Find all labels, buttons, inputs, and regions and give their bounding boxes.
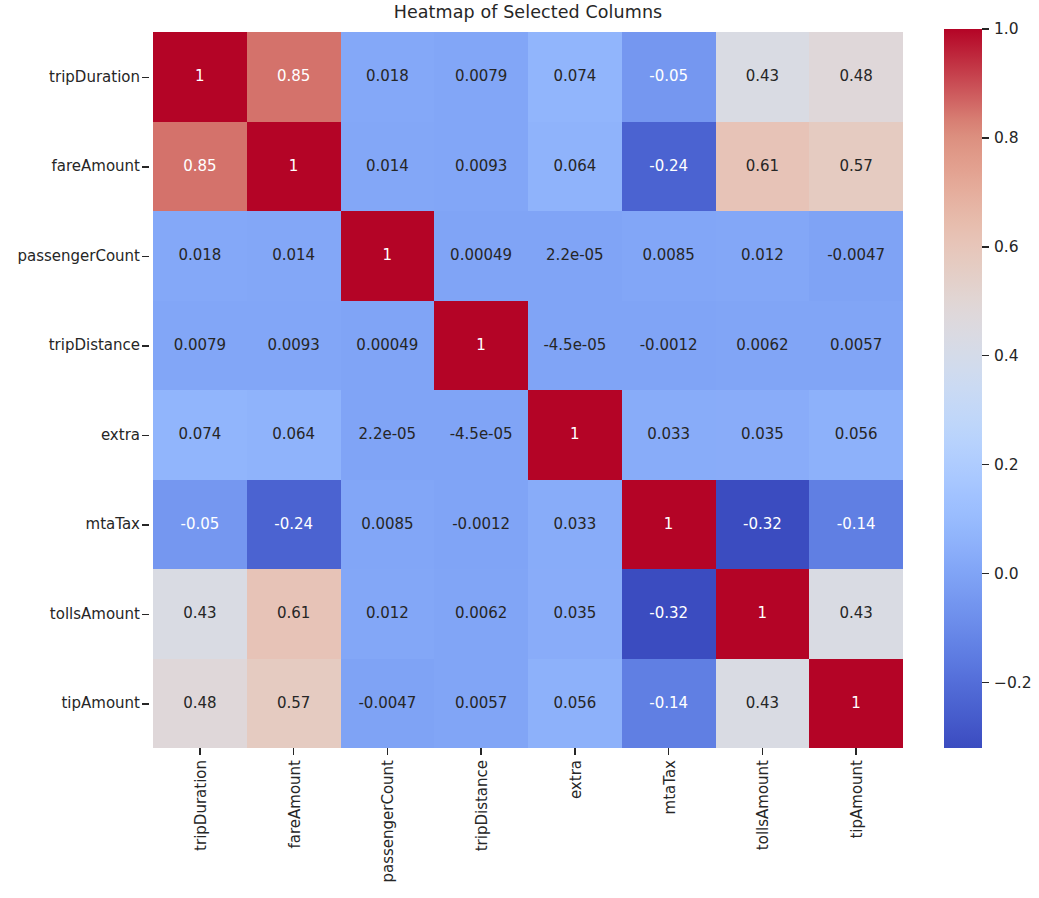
heatmap-cell-value: 0.43 bbox=[839, 606, 872, 621]
heatmap-cell: 0.43 bbox=[153, 569, 247, 659]
heatmap-cell-value: 0.0057 bbox=[830, 338, 883, 353]
heatmap-cell: 1 bbox=[809, 659, 903, 749]
x-tick-mark-icon bbox=[668, 748, 669, 755]
heatmap-cell: -0.0012 bbox=[622, 301, 716, 391]
x-axis-tick-labels: tripDurationfareAmountpassengerCounttrip… bbox=[153, 748, 903, 898]
heatmap-cell-value: 0.014 bbox=[366, 159, 409, 174]
heatmap-cell: -0.32 bbox=[622, 569, 716, 659]
heatmap-cell: 0.033 bbox=[528, 480, 622, 570]
heatmap-cell-value: 0.018 bbox=[366, 69, 409, 84]
x-tick-tripDuration: tripDuration bbox=[153, 748, 247, 898]
heatmap-cell: 0.0057 bbox=[809, 301, 903, 391]
heatmap-cell: -0.14 bbox=[809, 480, 903, 570]
heatmap-cell: 0.018 bbox=[341, 32, 435, 122]
heatmap-cell-value: 0.0085 bbox=[642, 248, 695, 263]
y-tick-mark-icon bbox=[142, 345, 149, 346]
heatmap-cell: 0.064 bbox=[528, 122, 622, 212]
heatmap-cell: 0.012 bbox=[341, 569, 435, 659]
heatmap-cell: 2.2e-05 bbox=[341, 390, 435, 480]
colorbar-tick-mark-icon bbox=[982, 573, 989, 574]
heatmap-cell-value: -0.24 bbox=[274, 517, 313, 532]
x-tick-extra: extra bbox=[528, 748, 622, 898]
heatmap-cell-value: 0.012 bbox=[741, 248, 784, 263]
x-tick-tripDistance: tripDistance bbox=[434, 748, 528, 898]
y-tick-mark-icon bbox=[142, 524, 149, 525]
heatmap-cell-value: -0.24 bbox=[649, 159, 688, 174]
heatmap-cell-value: 0.074 bbox=[178, 427, 221, 442]
y-tick-tripDistance: tripDistance bbox=[49, 301, 140, 391]
x-tick-tipAmount: tipAmount bbox=[809, 748, 903, 898]
heatmap-cell-value: 1 bbox=[570, 427, 580, 442]
heatmap-cell-value: -0.0047 bbox=[358, 696, 416, 711]
heatmap-cell: -0.32 bbox=[716, 480, 810, 570]
heatmap-cell: 0.056 bbox=[809, 390, 903, 480]
heatmap-cell: 1 bbox=[528, 390, 622, 480]
colorbar-tick-mark-icon bbox=[982, 464, 989, 465]
heatmap-cell: 0.0062 bbox=[434, 569, 528, 659]
heatmap-cell-value: 0.0093 bbox=[267, 338, 320, 353]
colorbar-tick-mark-icon bbox=[982, 246, 989, 247]
heatmap-cell: 0.43 bbox=[809, 569, 903, 659]
heatmap-cell-value: 2.2e-05 bbox=[546, 248, 604, 263]
heatmap-cell-value: 0.064 bbox=[553, 159, 596, 174]
heatmap-cell-value: 0.056 bbox=[835, 427, 878, 442]
heatmap-cell-value: -0.32 bbox=[649, 606, 688, 621]
heatmap-cell-value: 0.033 bbox=[647, 427, 690, 442]
heatmap-cell-value: -0.32 bbox=[743, 517, 782, 532]
heatmap-cell-value: 0.61 bbox=[277, 606, 310, 621]
heatmap-cell-value: 0.056 bbox=[553, 696, 596, 711]
heatmap-cell: -0.24 bbox=[247, 480, 341, 570]
y-tick-mark-icon bbox=[142, 614, 149, 615]
heatmap-cell: 0.61 bbox=[716, 122, 810, 212]
x-tick-label: tripDuration bbox=[192, 760, 210, 851]
heatmap-cell: -0.14 bbox=[622, 659, 716, 749]
heatmap-cell-value: 0.035 bbox=[553, 606, 596, 621]
heatmap-row: 0.0180.01410.000492.2e-050.00850.012-0.0… bbox=[153, 211, 903, 301]
heatmap-cell: 0.035 bbox=[528, 569, 622, 659]
heatmap-cell-value: -0.05 bbox=[649, 69, 688, 84]
heatmap-row: 0.00790.00930.000491-4.5e-05-0.00120.006… bbox=[153, 301, 903, 391]
heatmap-cell: 0.0079 bbox=[434, 32, 528, 122]
colorbar-tick-mark-icon bbox=[982, 682, 989, 683]
heatmap-cell-value: 1 bbox=[476, 338, 486, 353]
heatmap-cell-value: 0.00049 bbox=[356, 338, 418, 353]
colorbar-tick-label: −0.2 bbox=[994, 673, 1032, 691]
heatmap-cell: 1 bbox=[434, 301, 528, 391]
heatmap-cell-value: 0.018 bbox=[178, 248, 221, 263]
x-tick-label: mtaTax bbox=[661, 760, 679, 814]
heatmap-cell: 0.056 bbox=[528, 659, 622, 749]
heatmap-cell-value: 0.0079 bbox=[455, 69, 508, 84]
heatmap-cell-value: 0.57 bbox=[839, 159, 872, 174]
y-tick-label: tollsAmount bbox=[50, 605, 140, 623]
y-axis-tick-labels: tripDurationfareAmountpassengerCounttrip… bbox=[0, 32, 153, 748]
y-tick-tollsAmount: tollsAmount bbox=[50, 569, 140, 659]
colorbar-tick-mark-icon bbox=[982, 28, 989, 29]
y-tick-label: extra bbox=[101, 426, 140, 444]
heatmap-cell-value: 0.0079 bbox=[174, 338, 227, 353]
x-tick-label: tripDistance bbox=[473, 760, 491, 851]
y-tick-extra: extra bbox=[101, 390, 140, 480]
heatmap-row: -0.05-0.240.0085-0.00120.0331-0.32-0.14 bbox=[153, 480, 903, 570]
heatmap-cell-value: 0.064 bbox=[272, 427, 315, 442]
heatmap-cell: 0.00049 bbox=[434, 211, 528, 301]
x-tick-mark-icon bbox=[855, 748, 856, 755]
heatmap-cell: 0.014 bbox=[341, 122, 435, 212]
colorbar-tick-mark-icon bbox=[982, 355, 989, 356]
heatmap-cell: -0.0047 bbox=[809, 211, 903, 301]
heatmap-row: 0.480.57-0.00470.00570.056-0.140.431 bbox=[153, 659, 903, 749]
y-tick-tipAmount: tipAmount bbox=[61, 659, 140, 749]
colorbar-tick-label: 1.0 bbox=[994, 20, 1019, 38]
y-tick-tripDuration: tripDuration bbox=[49, 32, 140, 122]
x-tick-mark-icon bbox=[762, 748, 763, 755]
heatmap-grid: 10.850.0180.00790.074-0.050.430.480.8510… bbox=[153, 32, 903, 748]
heatmap-cell: 0.018 bbox=[153, 211, 247, 301]
heatmap-cell: 0.0062 bbox=[716, 301, 810, 391]
heatmap-cell-value: 1 bbox=[195, 69, 205, 84]
heatmap-cell-value: 0.0057 bbox=[455, 696, 508, 711]
heatmap-cell: 0.0085 bbox=[341, 480, 435, 570]
y-tick-label: tipAmount bbox=[61, 694, 140, 712]
heatmap-cell-value: 1 bbox=[664, 517, 674, 532]
heatmap-cell: -0.0012 bbox=[434, 480, 528, 570]
y-tick-label: passengerCount bbox=[17, 247, 140, 265]
x-tick-tollsAmount: tollsAmount bbox=[716, 748, 810, 898]
